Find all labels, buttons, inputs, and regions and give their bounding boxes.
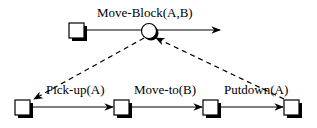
top-task-label: Move-Block(A,B): [97, 5, 193, 20]
subtask-label-putdown: Putdown(A): [224, 82, 288, 97]
state-node-4: [284, 100, 302, 118]
subtask-label-pickup: Pick-up(A): [46, 82, 105, 97]
top-start-state-node: [69, 23, 87, 41]
top-task-node: [142, 24, 159, 41]
state-node-1: [15, 100, 33, 118]
state-node-3: [203, 100, 221, 118]
state-node-2: [114, 100, 132, 118]
task-decomposition-diagram: Move-Block(A,B) Pick-up(A) Move-to(B) Pu…: [0, 0, 317, 128]
subtask-label-moveto: Move-to(B): [134, 82, 196, 97]
